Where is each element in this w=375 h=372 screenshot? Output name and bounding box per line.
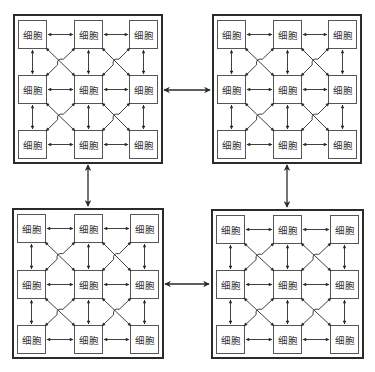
cell-network-diagram: 细胞细胞细胞细胞细胞细胞细胞细胞细胞细胞细胞细胞细胞细胞细胞细胞细胞细胞细胞细胞… bbox=[0, 0, 375, 372]
connection-arrows bbox=[0, 0, 375, 372]
